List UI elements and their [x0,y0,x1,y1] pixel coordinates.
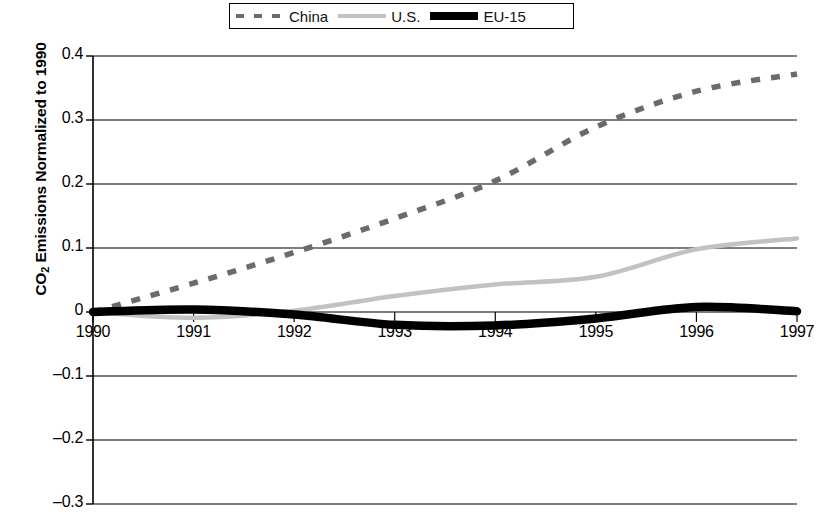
y-tick-label: –0.3 [31,493,83,511]
x-tick-label: 1996 [666,323,726,341]
data-series-layer [93,74,797,326]
legend-label-us: U.S. [391,8,420,25]
chart-figure: CO2 Emissions Normalized to 1990 0.40.30… [0,0,825,519]
x-tick-label: 1990 [63,323,123,341]
plot-area [0,0,825,519]
gridlines [93,56,797,504]
y-tick-label: 0.3 [31,109,83,127]
x-tick-label: 1992 [264,323,324,341]
y-tick-label: 0 [31,301,83,319]
legend-swatch-china-icon [236,14,284,18]
y-tick-label: 0.1 [31,237,83,255]
legend-entry-us: U.S. [338,8,430,25]
y-tick-label: –0.1 [31,365,83,383]
legend-label-china: China [289,8,328,25]
series-line-china [93,74,797,312]
y-axis-title-subscript: 2 [39,267,51,273]
y-tick-label: –0.2 [31,429,83,447]
legend-swatch-eu15-icon [430,12,478,20]
y-tick-label: 0.2 [31,173,83,191]
y-axis-title-main: CO [32,273,49,296]
x-tick-label: 1991 [164,323,224,341]
legend-entry-china: China [236,8,338,25]
x-tick-label: 1997 [767,323,825,341]
y-tick-label: 0.4 [31,45,83,63]
x-tick-label: 1993 [365,323,425,341]
chart-legend: China U.S. EU-15 [229,3,574,29]
x-tick-label: 1994 [465,323,525,341]
x-tick-label: 1995 [566,323,626,341]
y-axis-ticks [86,56,93,504]
y-axis-title-rest: Emissions Normalized to 1990 [32,42,49,267]
legend-swatch-us-icon [338,14,386,18]
legend-label-eu15: EU-15 [483,8,526,25]
legend-entry-eu15: EU-15 [430,8,536,25]
